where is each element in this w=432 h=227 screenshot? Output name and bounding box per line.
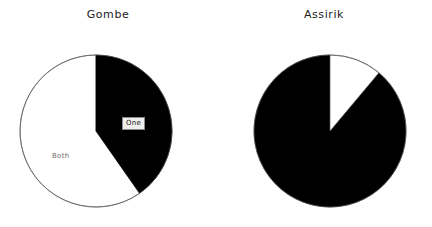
panel-gombe: Gombe One Both <box>0 0 216 227</box>
panel-title-assirik: Assirik <box>216 8 432 22</box>
pie-gombe-svg <box>20 55 172 207</box>
panel-title-gombe: Gombe <box>0 8 216 22</box>
pie-assirik <box>254 55 406 207</box>
pie-chart-figure: Gombe One Both Assirik <box>0 0 432 227</box>
pie-label-both-gombe: Both <box>52 152 69 161</box>
pie-gombe <box>20 55 172 207</box>
panel-assirik: Assirik <box>216 0 432 227</box>
pie-label-one-gombe: One <box>122 117 145 130</box>
pie-assirik-svg <box>254 55 406 207</box>
